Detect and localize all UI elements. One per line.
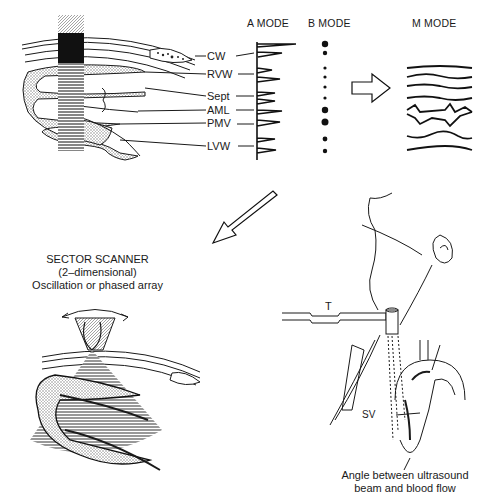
b-mode-dots — [322, 41, 329, 153]
label-aml: AML — [207, 104, 230, 116]
label-rvw: RVW — [207, 68, 232, 80]
label-cw: CW — [207, 50, 225, 62]
doppler-caption-line1: Angle between ultrasound — [320, 469, 489, 481]
sector-scanner-description: Oscillation or phased array — [20, 279, 175, 291]
a-mode-trace — [257, 42, 296, 160]
m-mode-traces — [407, 66, 472, 150]
arrow-down-left-icon — [213, 191, 277, 243]
label-pmv: PMV — [207, 117, 231, 129]
b-mode-heading: B MODE — [308, 17, 351, 29]
doppler-caption-line2: beam and blood flow — [320, 482, 489, 494]
transducer-icon — [58, 15, 84, 33]
m-mode-heading: M MODE — [412, 17, 456, 29]
doppler-neck-illustration — [282, 193, 465, 470]
echocardiography-diagram — [0, 0, 489, 495]
a-mode-heading: A MODE — [247, 17, 289, 29]
label-sept: Sept — [207, 90, 230, 102]
label-lvw: LVW — [207, 140, 230, 152]
heart-long-axis-illustration — [22, 38, 195, 160]
arrow-right-icon — [352, 74, 390, 102]
sector-scanner-subtitle: (2–dimensional) — [30, 266, 165, 278]
transducer-label: T — [325, 300, 332, 312]
sample-volume-label: SV — [362, 409, 375, 421]
sector-scanner-title: SECTOR SCANNER — [30, 253, 165, 265]
sector-scanner-illustration — [30, 310, 200, 471]
